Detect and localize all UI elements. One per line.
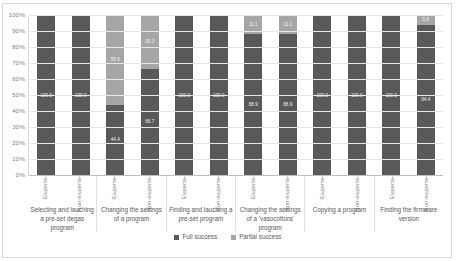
bar-segment-full-success[interactable]: 88.9 <box>244 34 262 176</box>
subcategory-label: Experts <box>389 178 395 199</box>
bar-value-label: 33.3 <box>145 40 154 45</box>
bar-segment-full-success[interactable]: 100.0 <box>210 16 228 176</box>
gridline: 30% <box>29 127 443 128</box>
bar-slot: 33.366.7 <box>133 16 168 176</box>
y-axis-tick-label: 80% <box>12 44 25 50</box>
bar-slot: 100.0 <box>305 16 340 176</box>
bar-value-label: 88.9 <box>249 103 258 108</box>
chart-container: 100.0100.055.644.433.366.7100.0100.011.1… <box>0 0 456 261</box>
category-group-label: Selecting and lauching a pre-set degas p… <box>28 205 97 231</box>
gridline: 80% <box>29 47 443 48</box>
bar-slot: 5.694.4 <box>409 16 444 176</box>
legend-swatch-icon <box>231 235 236 240</box>
stacked-bar[interactable]: 55.644.4 <box>106 16 124 176</box>
bar-value-label: 5.6 <box>423 18 429 23</box>
bar-slot: 11.188.9 <box>271 16 306 176</box>
stacked-bar[interactable]: 5.694.4 <box>417 16 435 176</box>
category-group-label: Finding and lauching a pre-set program <box>167 205 236 231</box>
stacked-bar[interactable]: 100.0 <box>313 16 331 176</box>
bar-segment-full-success[interactable]: 100.0 <box>313 16 331 176</box>
gridline: 70% <box>29 63 443 64</box>
y-axis-tick-label: 30% <box>12 124 25 130</box>
bar-slot: 100.0 <box>374 16 409 176</box>
stacked-bar[interactable]: 100.0 <box>210 16 228 176</box>
stacked-bar[interactable]: 33.366.7 <box>141 16 159 176</box>
stacked-bar[interactable]: 100.0 <box>37 16 55 176</box>
bar-segment-full-success[interactable]: 100.0 <box>348 16 366 176</box>
bar-segment-full-success[interactable]: 100.0 <box>382 16 400 176</box>
bar-group: 100.0100.0 <box>305 16 374 176</box>
bar-group: 11.188.911.188.9 <box>236 16 305 176</box>
category-group-label: Copying a program <box>305 205 374 231</box>
bar-segment-partial-success[interactable]: 5.6 <box>417 16 435 25</box>
stacked-bar[interactable]: 100.0 <box>348 16 366 176</box>
stacked-bar[interactable]: 100.0 <box>382 16 400 176</box>
bar-segment-full-success[interactable]: 100.0 <box>175 16 193 176</box>
category-group-label: Changing the settings of a 'vasocottura'… <box>236 205 305 231</box>
bar-slot: 100.0 <box>64 16 99 176</box>
bar-slot: 100.0 <box>167 16 202 176</box>
plot-area: 100.0100.055.644.433.366.7100.0100.011.1… <box>28 16 443 176</box>
bar-segment-partial-success[interactable]: 55.6 <box>106 16 124 105</box>
bar-segment-partial-success[interactable]: 33.3 <box>141 16 159 69</box>
bar-slot: 100.0 <box>340 16 375 176</box>
y-axis-tick-label: 50% <box>12 92 25 98</box>
bar-segment-full-success[interactable]: 44.4 <box>106 105 124 176</box>
y-axis-tick-label: 60% <box>12 76 25 82</box>
bar-group: 100.0100.0 <box>29 16 98 176</box>
category-group-label: Finding the firmware version <box>375 205 443 231</box>
bar-slot: 100.0 <box>202 16 237 176</box>
y-axis-tick-label: 70% <box>12 60 25 66</box>
bar-value-label: 11.1 <box>249 23 258 28</box>
category-group-label: Changing the settings of a program <box>97 205 166 231</box>
legend-item[interactable]: Partial success <box>231 234 281 240</box>
gridline: 50% <box>29 95 443 96</box>
bar-value-label: 11.1 <box>283 23 292 28</box>
bar-group: 55.644.433.366.7 <box>98 16 167 176</box>
plot-wrapper: 100.0100.055.644.433.366.7100.0100.011.1… <box>28 16 443 176</box>
y-axis-tick-label: 100% <box>9 12 25 18</box>
bar-slot: 55.644.4 <box>98 16 133 176</box>
gridline: 60% <box>29 79 443 80</box>
y-axis-tick-label: 0% <box>16 172 25 178</box>
subcategory-label: Experts <box>250 178 256 199</box>
bar-value-label: 66.7 <box>145 120 154 125</box>
gridline: 40% <box>29 111 443 112</box>
bar-value-label: 88.9 <box>283 103 292 108</box>
bar-group: 100.05.694.4 <box>374 16 443 176</box>
stacked-bar[interactable]: 100.0 <box>175 16 193 176</box>
y-axis-tick-label: 90% <box>12 28 25 34</box>
bar-segment-full-success[interactable]: 100.0 <box>72 16 90 176</box>
gridline: 20% <box>29 143 443 144</box>
subcategory-label: Experts <box>319 178 325 199</box>
bar-segment-full-success[interactable]: 100.0 <box>37 16 55 176</box>
subcategory-label: Experts <box>111 178 117 199</box>
subcategory-label: Experts <box>42 178 48 199</box>
gridline: 10% <box>29 159 443 160</box>
stacked-bar[interactable]: 11.188.9 <box>279 16 297 176</box>
y-axis-tick-label: 10% <box>12 156 25 162</box>
bar-group: 100.0100.0 <box>167 16 236 176</box>
bar-value-label: 94.4 <box>421 98 430 103</box>
bar-segment-full-success[interactable]: 88.9 <box>279 34 297 176</box>
gridline: 90% <box>29 31 443 32</box>
y-axis-tick-label: 20% <box>12 140 25 146</box>
group-title-axis: Selecting and lauching a pre-set degas p… <box>28 205 443 231</box>
bar-slot: 100.0 <box>29 16 64 176</box>
legend-label: Full success <box>182 234 217 240</box>
chart-legend: Full successPartial success <box>0 234 456 240</box>
legend-label: Partial success <box>239 234 281 240</box>
y-axis-tick-label: 40% <box>12 108 25 114</box>
bar-slot: 11.188.9 <box>236 16 271 176</box>
subcategory-label: Experts <box>181 178 187 199</box>
bars-layer: 100.0100.055.644.433.366.7100.0100.011.1… <box>29 16 443 176</box>
stacked-bar[interactable]: 11.188.9 <box>244 16 262 176</box>
gridline: 100% <box>29 15 443 16</box>
stacked-bar[interactable]: 100.0 <box>72 16 90 176</box>
legend-swatch-icon <box>174 235 179 240</box>
legend-item[interactable]: Full success <box>174 234 217 240</box>
